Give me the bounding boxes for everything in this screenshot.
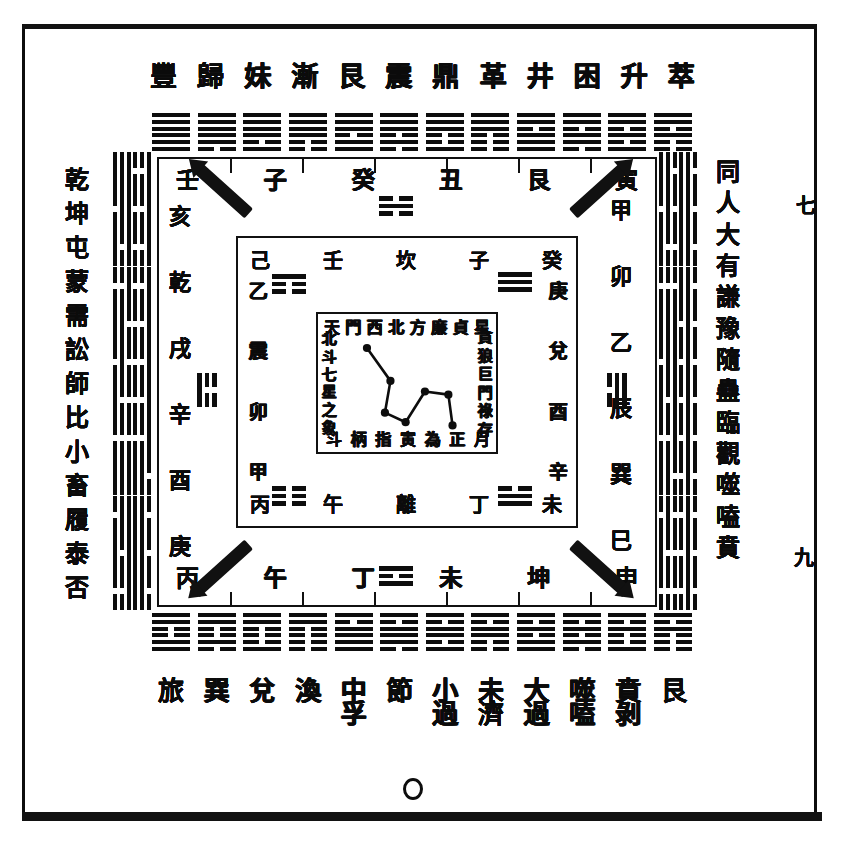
divination-plate: 豐歸妹漸艮震鼎革井困升萃 壬子癸丑艮寅 丙午丁未坤申 亥乾戌辛酉庚 甲卯乙辰巽巳… xyxy=(0,0,842,863)
hexagram-cell xyxy=(380,113,418,151)
mid-ring-top-glyph-3: 子 xyxy=(469,251,489,271)
dipper-star-3: 天權 Megrez xyxy=(402,418,410,426)
hexagram xyxy=(659,190,697,228)
outer-ring-top-glyph-2: 癸 xyxy=(352,169,375,192)
bottom-caption-cell-11: 艮 xyxy=(653,678,695,704)
left-caption-glyph-11: 泰 xyxy=(65,542,89,566)
hexagram-cell xyxy=(659,381,697,419)
hexagram-cell xyxy=(113,572,151,610)
hexagram xyxy=(563,613,601,651)
outer-ring-top-glyph-1: 子 xyxy=(264,169,287,192)
trigram-south xyxy=(379,566,413,586)
outer-square-tick-bottom-0 xyxy=(230,592,232,606)
hexagram-cell xyxy=(517,613,555,651)
hexagram-cell xyxy=(113,190,151,228)
hexagram xyxy=(659,228,697,266)
hexagram-cell xyxy=(608,113,646,151)
hexagram xyxy=(563,113,601,151)
bottom-caption-glyph-second-6: 過 xyxy=(432,701,458,727)
mid-ring-bottom-glyph-2: 離 xyxy=(396,495,416,515)
hexagram xyxy=(113,457,151,495)
hexagram xyxy=(243,613,281,651)
outer-ring-bottom-glyph-2: 丁 xyxy=(352,567,375,590)
right-caption-glyph-6: 隨 xyxy=(716,348,740,372)
hexagram-cell xyxy=(659,152,697,190)
left-caption-glyph-8: 小 xyxy=(65,440,89,464)
top-caption-glyph-10: 升 xyxy=(621,63,648,90)
left-caption-glyph-0: 乾 xyxy=(65,168,89,192)
hexagram-cell xyxy=(654,113,692,151)
hexagram xyxy=(608,613,646,651)
mid-ring-right-glyphs: 庚兌酉辛 xyxy=(543,282,573,482)
top-caption-glyph-11: 萃 xyxy=(668,63,695,90)
hexagram-cell xyxy=(426,113,464,151)
hexagram xyxy=(335,613,373,651)
hexagram xyxy=(113,228,151,266)
trigram-west xyxy=(190,380,224,400)
bottom-caption-cell-3: 渙 xyxy=(287,678,329,704)
hexagram-cell xyxy=(113,419,151,457)
bottom-circle-icon xyxy=(403,778,423,800)
bottom-caption-cell-10: 賁剝 xyxy=(607,678,649,727)
hexagram-band-left xyxy=(112,152,152,610)
hexagram xyxy=(289,113,327,151)
hexagram-cell xyxy=(289,113,327,151)
bottom-caption-glyph-5: 節 xyxy=(387,678,413,704)
dipper-star-1: 天璇 Merak xyxy=(386,377,394,385)
top-caption-row: 豐歸妹漸艮震鼎革井困升萃 xyxy=(150,44,695,90)
hexagram-cell xyxy=(659,457,697,495)
hexagram xyxy=(659,305,697,343)
hexagram xyxy=(471,113,509,151)
mid-ring-bottom-glyph-0: 丙 xyxy=(250,495,270,515)
hexagram xyxy=(152,613,190,651)
outer-ring-left-glyph-5: 庚 xyxy=(169,536,191,558)
hexagram xyxy=(113,419,151,457)
hexagram xyxy=(659,343,697,381)
outer-ring-right-glyph-0: 甲 xyxy=(610,200,632,222)
left-caption-glyph-4: 需 xyxy=(65,304,89,328)
trigram-north xyxy=(379,196,413,216)
mid-ring-right-glyph-2: 酉 xyxy=(549,403,568,422)
mid-ring-top-glyph-1: 壬 xyxy=(323,251,343,271)
hexagram xyxy=(654,113,692,151)
hexagram xyxy=(517,613,555,651)
outer-ring-right-glyph-1: 卯 xyxy=(610,266,632,288)
frame-bottom-rule xyxy=(22,812,822,821)
outer-ring-bottom-glyph-1: 午 xyxy=(264,567,287,590)
top-caption-glyph-5: 震 xyxy=(385,63,412,90)
trigram-east xyxy=(600,380,634,400)
outer-ring-bottom-glyph-3: 未 xyxy=(439,567,462,590)
left-caption-glyph-9: 畜 xyxy=(65,474,89,498)
right-caption-glyph-12: 賁 xyxy=(716,536,740,560)
top-caption-glyph-4: 艮 xyxy=(338,63,365,90)
bottom-caption-glyph-second-10: 剝 xyxy=(615,701,641,727)
hexagram-cell xyxy=(243,613,281,651)
hexagram-cell xyxy=(243,113,281,151)
top-caption-glyph-1: 歸 xyxy=(197,63,224,90)
hexagram-cell xyxy=(113,534,151,572)
hexagram-cell xyxy=(113,305,151,343)
hexagram xyxy=(113,190,151,228)
hexagram-cell xyxy=(113,152,151,190)
outer-square-tick-bottom-5 xyxy=(590,592,592,606)
hexagram-cell xyxy=(471,113,509,151)
left-caption-glyph-1: 坤 xyxy=(65,202,89,226)
outer-ring-right-glyph-4: 巽 xyxy=(610,464,632,486)
hexagram xyxy=(608,113,646,151)
hexagram xyxy=(113,343,151,381)
hexagram-cell xyxy=(659,572,697,610)
hexagram xyxy=(380,113,418,151)
hexagram-band-right xyxy=(658,152,698,610)
right-caption-glyph-8: 臨 xyxy=(716,411,740,435)
outer-ring-right-glyph-2: 乙 xyxy=(610,332,632,354)
outer-square-tick-top-1 xyxy=(302,159,304,173)
mid-ring-right-glyph-0: 庚 xyxy=(549,282,568,301)
hexagram-cell xyxy=(659,496,697,534)
hexagram xyxy=(113,534,151,572)
bottom-caption-glyph-second-7: 濟 xyxy=(478,701,504,727)
mid-ring-top-glyphs: 己壬坎子癸 xyxy=(250,244,562,278)
hexagram-cell xyxy=(659,190,697,228)
bottom-caption-cell-1: 巽 xyxy=(196,678,238,704)
hexagram-cell xyxy=(113,457,151,495)
mid-ring-left-glyph-1: 震 xyxy=(249,342,268,361)
